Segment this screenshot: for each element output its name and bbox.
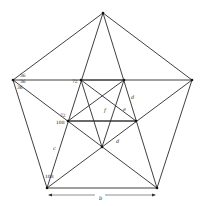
length-label-c: c: [53, 145, 56, 151]
pentagram-diagonal: [47, 80, 192, 188]
inner-star-edge: [102, 80, 124, 147]
inner-vertex: [67, 120, 70, 123]
pentagram-diagonal: [13, 80, 157, 188]
angle-label-inner-mid-left-top: 72: [60, 113, 66, 118]
arrowhead-b-left: [48, 194, 52, 197]
inner-star-edge: [81, 80, 136, 121]
outer-pentagon-edge: [13, 13, 103, 80]
inner-star-edge: [81, 80, 102, 147]
inner-vertex: [80, 79, 83, 82]
angle-label-left-mid: 36: [20, 79, 26, 84]
diagram-labels: 36 36 36 72 72 108 108 d d f e c b: [17, 73, 134, 201]
length-label-d-upper: d: [131, 94, 134, 100]
arrowhead-b-right: [152, 194, 156, 197]
inner-vertex: [135, 120, 138, 123]
diagram-edges: [13, 13, 192, 188]
outer-pentagon-edge: [13, 80, 47, 188]
pentagon-diagram: 36 36 36 72 72 108 108 d d f e c b: [0, 0, 202, 206]
angle-label-inner-top-left: 72: [72, 79, 78, 84]
inner-star-edge: [68, 80, 124, 121]
angle-label-left-bot: 36: [17, 85, 23, 90]
angle-label-bottom-left: 108: [45, 174, 54, 179]
angle-label-inner-mid-left-bot: 108: [56, 120, 65, 125]
pentagram-diagonal: [47, 13, 103, 188]
length-label-f: f: [103, 107, 107, 114]
inner-vertex: [101, 146, 104, 149]
pentagram-diagonal: [103, 13, 157, 188]
outer-pentagon-edge: [157, 80, 192, 188]
angle-label-left-top: 36: [20, 73, 26, 78]
outer-vertex: [102, 12, 105, 15]
length-label-d-lower: d: [116, 138, 119, 144]
outer-vertex: [156, 187, 159, 190]
outer-vertex: [191, 79, 194, 82]
inner-vertex: [123, 79, 126, 82]
outer-vertex: [46, 187, 49, 190]
length-label-e: e: [123, 106, 126, 112]
length-label-b: b: [99, 195, 102, 201]
outer-vertex: [12, 79, 15, 82]
outer-pentagon-edge: [103, 13, 192, 80]
